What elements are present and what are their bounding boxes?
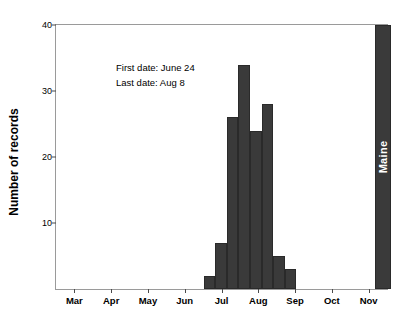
x-tick-mark — [295, 289, 296, 293]
annotation-last-date: Last date: Aug 8 — [116, 76, 195, 91]
y-tick-mark — [52, 223, 56, 224]
bar — [204, 276, 216, 289]
x-tick-label: May — [139, 295, 157, 306]
x-tick-mark — [222, 289, 223, 293]
bar — [273, 256, 285, 289]
x-tick-label: Jul — [215, 295, 229, 306]
annotation-first-date: First date: June 24 — [116, 61, 195, 76]
bar — [215, 243, 227, 289]
x-tick-label: Aug — [249, 295, 267, 306]
y-tick-label: 30 — [42, 86, 52, 96]
bar — [250, 131, 262, 289]
x-tick-mark — [185, 289, 186, 293]
x-tick-mark — [369, 289, 370, 293]
y-tick-label: 20 — [42, 152, 52, 162]
x-tick-label: Oct — [324, 295, 340, 306]
x-tick-mark — [111, 289, 112, 293]
x-tick-mark — [258, 289, 259, 293]
bar — [227, 117, 239, 289]
x-tick-mark — [74, 289, 75, 293]
y-tick-mark — [52, 157, 56, 158]
bar — [285, 269, 297, 289]
x-tick-label: Nov — [360, 295, 378, 306]
x-tick-label: Apr — [103, 295, 119, 306]
x-tick-mark — [148, 289, 149, 293]
y-axis-label: Number of records — [7, 108, 21, 215]
x-tick-mark — [332, 289, 333, 293]
region-band-label: Maine — [377, 141, 389, 174]
x-tick-label: Sep — [286, 295, 303, 306]
plot-area: 10203040 MarAprMayJunJulAugSepOctNov Mai… — [55, 24, 388, 290]
y-tick-label: 40 — [42, 20, 52, 30]
y-tick-mark — [52, 25, 56, 26]
y-tick-label: 10 — [42, 218, 52, 228]
bar — [238, 65, 250, 289]
chart-root: Number of records 10203040 MarAprMayJunJ… — [0, 0, 417, 324]
annotation-block: First date: June 24 Last date: Aug 8 — [116, 61, 195, 90]
x-tick-label: Mar — [66, 295, 83, 306]
region-band: Maine — [375, 25, 391, 289]
y-tick-mark — [52, 91, 56, 92]
bar — [262, 104, 274, 289]
x-tick-label: Jun — [176, 295, 193, 306]
